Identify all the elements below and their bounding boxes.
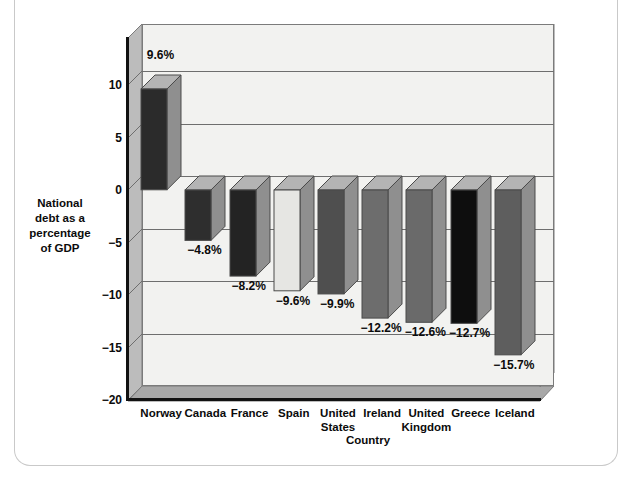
bar-value-label: −12.6% — [405, 326, 446, 338]
bar-value-label: −4.8% — [187, 244, 221, 256]
gridline — [142, 124, 554, 125]
bar-ireland[interactable] — [362, 176, 404, 320]
bar-france[interactable] — [230, 176, 272, 278]
x-tick-label-line: Iceland — [483, 406, 547, 420]
bar-value-label: −9.9% — [320, 298, 354, 310]
x-tick-label: Iceland — [483, 406, 547, 420]
y-tick-label: 10 — [88, 79, 122, 91]
bar-value-label: −9.6% — [276, 295, 310, 307]
y-axis-title-line: percentage — [8, 226, 112, 241]
y-axis-title-line: National — [8, 196, 112, 211]
gridline-depth-connector — [128, 229, 148, 249]
bar-value-label: −12.7% — [449, 327, 490, 339]
gridline-depth-connector — [128, 281, 148, 301]
bar-canada[interactable] — [185, 176, 227, 242]
gridline-depth-connector — [128, 334, 148, 354]
bar-value-label: −15.7% — [493, 359, 534, 371]
bar-greece[interactable] — [451, 176, 493, 325]
y-tick-label: 5 — [88, 132, 122, 144]
bar-iceland[interactable] — [495, 176, 537, 357]
bar-spain[interactable] — [274, 176, 316, 293]
x-axis-title: Country — [328, 434, 408, 446]
bar-norway[interactable] — [141, 75, 183, 192]
x-tick-label-line: Kingdom — [394, 420, 458, 434]
y-tick-label: −20 — [88, 394, 122, 406]
gridline — [142, 334, 554, 335]
bar-united-kingdom[interactable] — [406, 176, 448, 324]
y-tick-label: −10 — [88, 289, 122, 301]
bar-united-states[interactable] — [318, 176, 360, 296]
y-axis-line — [126, 37, 129, 401]
bar-chart-figure: 1050−5−10−15−20 Nationaldebt as apercent… — [0, 0, 632, 478]
bar-value-label: −8.2% — [232, 280, 266, 292]
y-tick-label: 0 — [88, 184, 122, 196]
bar-value-label: −12.2% — [361, 322, 402, 334]
x-axis-line — [126, 398, 541, 401]
x-tick-label-line: States — [306, 420, 370, 434]
y-axis-title-line: of GDP — [8, 241, 112, 256]
bar-value-label: 9.6% — [147, 49, 174, 61]
y-axis-title: Nationaldebt as apercentageof GDP — [8, 196, 112, 256]
y-axis-title-line: debt as a — [8, 211, 112, 226]
y-tick-label: −15 — [88, 342, 122, 354]
gridline — [142, 71, 554, 72]
